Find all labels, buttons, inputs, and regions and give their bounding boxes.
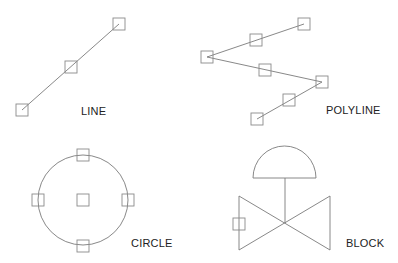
grips-diagram: LINE POLYLINE CIRCLE BLOCK <box>0 0 398 263</box>
polyline-midpoint-grip[interactable] <box>283 94 295 106</box>
circle-object: CIRCLE <box>32 149 173 252</box>
line-segment <box>22 24 119 110</box>
line-label: LINE <box>81 105 106 117</box>
line-object: LINE <box>16 18 125 117</box>
polyline-label: POLYLINE <box>326 104 381 116</box>
circle-label: CIRCLE <box>131 237 173 249</box>
circle-shape <box>38 155 128 245</box>
polyline-object: POLYLINE <box>201 18 381 125</box>
block-object: BLOCK <box>233 146 385 250</box>
valve-bowtie-body <box>239 196 330 250</box>
polyline-path <box>207 24 322 119</box>
block-label: BLOCK <box>346 237 385 249</box>
valve-actuator-dome <box>253 146 316 178</box>
circle-center-grip[interactable] <box>77 194 89 206</box>
circle-quadrant-grip-bottom[interactable] <box>77 240 89 252</box>
